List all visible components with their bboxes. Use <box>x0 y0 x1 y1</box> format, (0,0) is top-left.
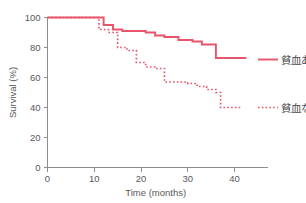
y-tick-label: 20 <box>30 132 41 143</box>
x-axis: 010203040 <box>45 168 268 185</box>
y-axis-ticks: 020406080100 <box>25 12 48 173</box>
y-tick-label: 60 <box>30 72 41 83</box>
y-tick-label: 100 <box>25 12 41 23</box>
survival-curve-1 <box>48 18 247 59</box>
survival-curves <box>48 18 247 108</box>
legend: 貧血あり貧血なし <box>258 54 306 114</box>
x-axis-title: Time (months) <box>125 187 186 198</box>
y-tick-label: 80 <box>30 42 41 53</box>
y-tick-label: 0 <box>35 162 40 173</box>
x-tick-label: 30 <box>183 173 194 184</box>
legend-label-2: 貧血なし <box>281 102 306 114</box>
x-tick-label: 20 <box>136 173 147 184</box>
kaplan-meier-survival-chart: 020406080100 010203040 貧血あり貧血なし Time (mo… <box>0 0 306 203</box>
x-tick-label: 0 <box>45 173 50 184</box>
legend-label-1: 貧血あり <box>281 54 306 66</box>
y-tick-label: 40 <box>30 102 41 113</box>
x-axis-ticks: 010203040 <box>45 168 240 185</box>
x-tick-label: 10 <box>89 173 100 184</box>
chart-canvas: 020406080100 010203040 貧血あり貧血なし Time (mo… <box>0 0 306 203</box>
x-tick-label: 40 <box>229 173 240 184</box>
y-axis-title: Survival (%) <box>7 67 18 118</box>
y-axis: 020406080100 <box>25 12 48 173</box>
